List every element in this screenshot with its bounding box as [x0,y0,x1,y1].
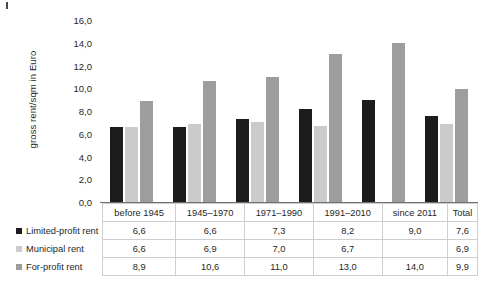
bar [140,101,153,202]
table-cell-value: 11,0 [245,258,314,276]
table-cell-value: 6,6 [176,222,245,240]
table-column-header: 1971–1990 [245,204,314,222]
legend-label: Limited-profit rent [26,226,98,236]
bar-group [415,20,478,202]
table-row: Municipal rent6,66,97,06,76,9 [14,240,478,258]
table-cell-value: 6,9 [176,240,245,258]
table-cell-value: 9,0 [382,222,448,240]
y-tick-16-0: 16,0 [36,15,92,26]
table-column-header: before 1945 [103,204,176,222]
table-row: Limited-profit rent6,66,67,38,29,07,6 [14,222,478,240]
table-cell-value: 7,0 [245,240,314,258]
table-cell-value: 10,6 [176,258,245,276]
bar [440,124,453,202]
bar [455,89,468,202]
bar [266,77,279,202]
legend-label: Municipal rent [26,244,84,254]
table-cell-value: 9,9 [448,258,478,276]
table-cell-value: 6,7 [313,240,382,258]
table-cell-value: 6,6 [103,222,176,240]
bar-group [352,20,415,202]
chart-figure: gross rent/sqm in Euro 16,014,012,010,08… [0,0,492,287]
table-column-header: 1945–1970 [176,204,245,222]
table-cell-value: 6,6 [103,240,176,258]
table-cell-value: 7,3 [245,222,314,240]
scan-artifact [6,2,8,9]
bar [188,124,201,202]
table-cell-value: 8,2 [313,222,382,240]
table-row: For-profit rent8,910,611,013,014,09,9 [14,258,478,276]
y-tick-2-0: 2,0 [36,174,92,185]
bar [203,81,216,202]
bar [362,100,375,202]
bar [125,127,138,202]
legend-item-for-profit-rent: For-profit rent [14,258,103,276]
bar-group [100,20,163,202]
bar [314,126,327,202]
y-tick-6-0: 6,0 [36,128,92,139]
data-table: before 19451945–19701971–19901991–2010si… [14,203,478,276]
table-column-header: Total [448,204,478,222]
legend-label: For-profit rent [26,262,82,272]
y-tick-12-0: 12,0 [36,60,92,71]
bar [173,127,186,202]
y-tick-14-0: 14,0 [36,37,92,48]
table-header-row: before 19451945–19701971–19901991–2010si… [14,204,478,222]
bar [251,122,264,202]
y-tick-10-0: 10,0 [36,83,92,94]
table-cell-value: 8,9 [103,258,176,276]
bar-group [289,20,352,202]
bar [425,116,438,202]
legend-item-limited-profit-rent: Limited-profit rent [14,222,103,240]
legend-item-municipal-rent: Municipal rent [14,240,103,258]
plot-area [100,20,478,202]
bar [329,54,342,202]
bar [392,43,405,202]
table-cell-value: 6,9 [448,240,478,258]
bar-group [163,20,226,202]
y-tick-4-0: 4,0 [36,151,92,162]
table-column-header: since 2011 [382,204,448,222]
table-column-header: 1991–2010 [313,204,382,222]
bar [110,127,123,202]
table-cell-value: 14,0 [382,258,448,276]
table-cell-value: 13,0 [313,258,382,276]
table-corner-cell [14,204,103,222]
bar [236,119,249,202]
legend-swatch-icon [16,228,22,234]
y-tick-8-0: 8,0 [36,106,92,117]
table-cell-value [382,240,448,258]
legend-swatch-icon [16,264,22,270]
bar [299,109,312,202]
table-cell-value: 7,6 [448,222,478,240]
y-axis-tick-labels: 16,014,012,010,08,06,04,02,00,0 [36,20,92,202]
bar-group [226,20,289,202]
legend-swatch-icon [16,246,22,252]
